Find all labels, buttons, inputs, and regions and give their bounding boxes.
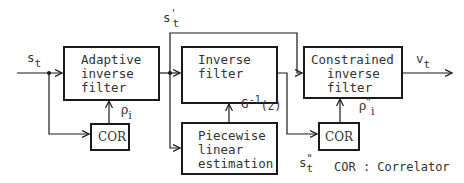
inverse-filter-formula: G-1(z) xyxy=(211,83,281,126)
inverse-filter-block: Inverse filter G-1(z) xyxy=(181,46,278,104)
legend-correlator: COR : Correlator xyxy=(334,160,450,174)
constrained-filter-line1: Constrained xyxy=(311,53,394,67)
piecewise-linear-estimation-block: Piecewise linear estimation xyxy=(181,122,278,175)
piecewise-line2: linear xyxy=(198,143,243,157)
adaptive-filter-line3: filter xyxy=(81,81,126,95)
constrained-filter-line3: filter xyxy=(327,81,372,95)
inverse-filter-line1: Inverse xyxy=(198,53,251,67)
signal-inverse-out-label: s"t xyxy=(299,155,319,170)
cor1-label: COR xyxy=(98,130,126,144)
piecewise-line3: estimation xyxy=(198,157,273,171)
piecewise-line1: Piecewise xyxy=(198,129,266,143)
rho1-label: ρi xyxy=(121,102,132,117)
adaptive-filter-line2: inverse xyxy=(81,67,134,81)
constrained-filter-line2: inverse xyxy=(327,67,380,81)
constrained-inverse-filter-block: Constrained inverse filter xyxy=(303,46,403,99)
signal-intermediate-label: s't xyxy=(163,10,183,25)
correlator-block-1: COR xyxy=(90,123,130,151)
adaptive-inverse-filter-block: Adaptive inverse filter xyxy=(63,46,160,101)
correlator-block-2: COR xyxy=(318,122,360,151)
inverse-filter-line2: filter xyxy=(198,67,243,81)
junction-dot-input xyxy=(47,71,51,75)
adaptive-filter-line1: Adaptive xyxy=(81,53,141,67)
signal-input-label: st xyxy=(27,50,41,65)
junction-dot-intermediate xyxy=(168,71,172,75)
rho2-label: ρ"i xyxy=(359,98,375,113)
signal-output-label: vt xyxy=(416,51,430,66)
cor2-label: COR xyxy=(325,130,353,144)
